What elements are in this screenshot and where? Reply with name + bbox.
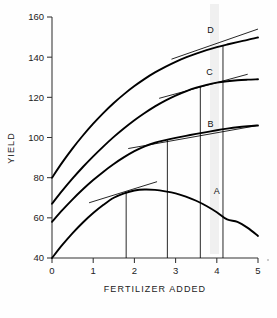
x-tick-label-1: 1: [91, 265, 96, 276]
y-tick-label-40: 40: [33, 252, 44, 263]
fertilizer-yield-figure: 406080100120140160 012345 ABCD FERTILIZE…: [0, 0, 277, 318]
dust-speck: [267, 259, 269, 261]
curve-label-D: D: [207, 25, 214, 35]
x-tick-label-0: 0: [49, 265, 54, 276]
x-axis-title: FERTILIZER ADDED: [104, 284, 206, 294]
x-tick-label-3: 3: [173, 265, 178, 276]
y-tick-label-60: 60: [33, 212, 44, 223]
y-tick-label-160: 160: [28, 11, 44, 22]
y-axis-title: YIELD: [6, 132, 16, 164]
y-tick-label-140: 140: [28, 52, 44, 63]
curve-label-A: A: [214, 186, 220, 196]
y-tick-label-100: 100: [28, 132, 44, 143]
x-tick-label-4: 4: [214, 265, 219, 276]
x-tick-label-5: 5: [255, 265, 260, 276]
yield-response-chart: 406080100120140160 012345 ABCD FERTILIZE…: [0, 0, 277, 318]
curve-label-C: C: [206, 67, 213, 77]
x-tick-label-2: 2: [132, 265, 137, 276]
y-tick-label-80: 80: [33, 172, 44, 183]
curve-label-B: B: [208, 119, 214, 129]
y-tick-label-120: 120: [28, 92, 44, 103]
chart-background: [0, 0, 277, 318]
